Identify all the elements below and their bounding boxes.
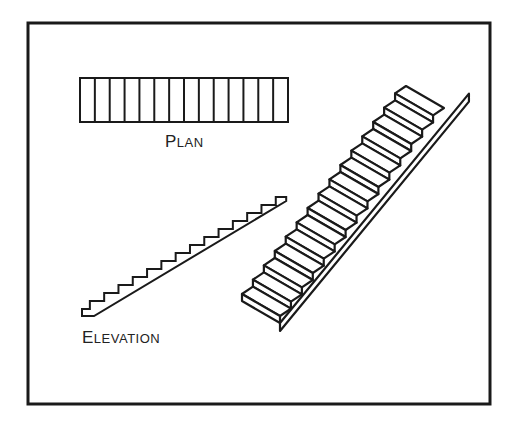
elevation-label: ELEVATION: [82, 328, 160, 348]
stair-diagram: [0, 0, 516, 436]
plan-view: [80, 78, 288, 122]
plan-label: PLAN: [165, 132, 204, 152]
